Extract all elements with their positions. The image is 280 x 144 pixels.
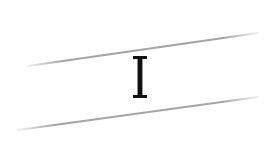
captcha-character: I (130, 50, 150, 106)
captcha-image: I (0, 0, 280, 144)
